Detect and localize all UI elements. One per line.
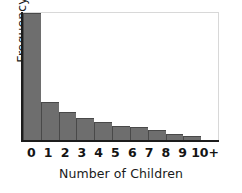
plot-area xyxy=(23,12,219,140)
x-axis-title: Number of Children xyxy=(0,166,242,181)
bar xyxy=(130,127,148,140)
bar xyxy=(183,136,201,140)
x-tick-label: 9 xyxy=(174,144,191,162)
x-tick-label: 10+ xyxy=(191,144,219,162)
x-tick-label: 6 xyxy=(124,144,141,162)
x-tick-label: 8 xyxy=(158,144,175,162)
bar xyxy=(148,130,166,140)
bar xyxy=(23,13,41,140)
x-tick-label: 3 xyxy=(73,144,90,162)
x-axis-tick-labels: 012345678910+ xyxy=(23,144,219,162)
bar xyxy=(166,134,184,140)
x-tick-label: 7 xyxy=(141,144,158,162)
bar xyxy=(59,112,77,140)
x-tick-label: 2 xyxy=(57,144,74,162)
bar-series xyxy=(23,13,218,140)
histogram-figure: Frequency 012345678910+ Number of Childr… xyxy=(0,0,242,193)
bar xyxy=(94,122,112,140)
bar xyxy=(76,118,94,140)
bar xyxy=(41,102,59,140)
bar xyxy=(112,126,130,140)
x-tick-label: 1 xyxy=(40,144,57,162)
x-tick-label: 4 xyxy=(90,144,107,162)
x-tick-label: 5 xyxy=(107,144,124,162)
x-tick-label: 0 xyxy=(23,144,40,162)
